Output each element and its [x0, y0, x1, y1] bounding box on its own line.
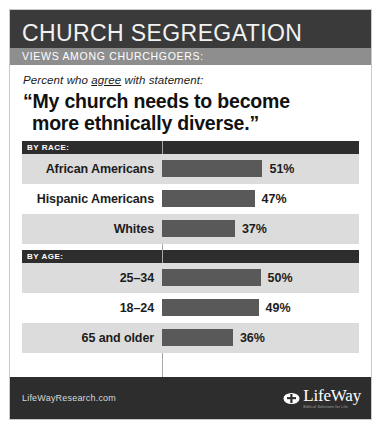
bar-track: 47%	[162, 184, 359, 214]
bar	[162, 269, 261, 286]
row-label: 65 and older	[22, 331, 162, 345]
section-header-label: BY AGE:	[27, 252, 63, 261]
infographic-card: CHURCH SEGREGATION VIEWS AMONG CHURCHGOE…	[0, 0, 381, 429]
bar	[162, 190, 255, 207]
footer: LifeWayResearch.com LifeWay Biblical Sol…	[10, 377, 371, 419]
kicker-emphasis-agree: agree	[91, 74, 121, 86]
bar	[162, 299, 259, 316]
bar-value: 51%	[269, 162, 294, 176]
bar-value: 50%	[268, 271, 293, 285]
logo-wordmark: LifeWay	[303, 387, 361, 404]
bar-value: 36%	[240, 331, 265, 345]
bar-track: 37%	[162, 214, 359, 244]
table-row: 25–34 50%	[22, 263, 359, 293]
quote-line-2: more ethnically diverse.”	[23, 112, 359, 135]
kicker-text-before: Percent who	[23, 74, 91, 86]
row-label: Whites	[22, 222, 162, 236]
rows-by-race: African Americans 51% Hispanic Americans…	[22, 154, 359, 244]
subtitle-band: VIEWS AMONG CHURCHGOERS:	[10, 48, 371, 65]
row-label: 25–34	[22, 271, 162, 285]
logo-tagline: Biblical Solutions for Life	[303, 405, 348, 409]
table-row: 65 and older 36%	[22, 323, 359, 353]
section-header-by-age: BY AGE:	[22, 250, 359, 263]
bar-value: 37%	[242, 222, 267, 236]
bar-value: 49%	[266, 301, 291, 315]
bar-track: 50%	[162, 263, 359, 293]
row-label: Hispanic Americans	[22, 192, 162, 206]
statement-quote: “My church needs to become more ethnical…	[23, 90, 359, 135]
quote-line-1: “My church needs to become	[23, 90, 359, 113]
infographic-content: CHURCH SEGREGATION VIEWS AMONG CHURCHGOE…	[10, 10, 371, 419]
rows-by-age: 25–34 50% 18–24 49% 65 and older	[22, 263, 359, 353]
section-header-by-race: BY RACE:	[22, 141, 359, 154]
header: CHURCH SEGREGATION VIEWS AMONG CHURCHGOE…	[10, 10, 371, 65]
page-title: CHURCH SEGREGATION	[10, 21, 371, 48]
statement-kicker: Percent who agree with statement:	[23, 74, 359, 86]
bar	[162, 160, 262, 177]
logo-text-block: LifeWay Biblical Solutions for Life	[303, 387, 361, 409]
bar-value: 47%	[262, 192, 287, 206]
lifeway-oval-cross-icon	[283, 392, 300, 405]
bar	[162, 220, 235, 237]
statement-area: Percent who agree with statement: “My ch…	[10, 65, 371, 141]
kicker-text-after: with statement:	[121, 74, 203, 86]
table-row: 18–24 49%	[22, 293, 359, 323]
lifeway-logo: LifeWay Biblical Solutions for Life	[283, 387, 361, 409]
bar	[162, 329, 233, 346]
row-label: 18–24	[22, 301, 162, 315]
table-row: Whites 37%	[22, 214, 359, 244]
table-row: Hispanic Americans 47%	[22, 184, 359, 214]
bar-track: 51%	[162, 154, 359, 184]
bar-track: 36%	[162, 323, 359, 353]
section-header-label: BY RACE:	[27, 143, 70, 152]
row-label: African Americans	[22, 162, 162, 176]
table-row: African Americans 51%	[22, 154, 359, 184]
page-subtitle: VIEWS AMONG CHURCHGOERS:	[22, 50, 371, 63]
bar-track: 49%	[162, 293, 359, 323]
bar-chart: BY RACE: African Americans 51% Hispanic …	[10, 141, 371, 377]
footer-url[interactable]: LifeWayResearch.com	[22, 393, 116, 403]
